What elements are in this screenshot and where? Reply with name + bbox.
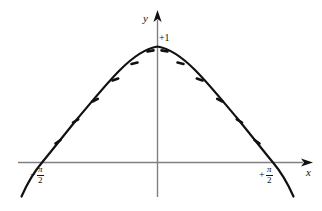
curve-tick-mark: [56, 140, 61, 144]
cosine-plot-figure: y x +1 − π 2 + π 2: [0, 0, 322, 211]
fraction-denominator: 2: [266, 176, 273, 185]
curve-tick-mark: [73, 119, 78, 122]
fraction-denominator: 2: [37, 176, 44, 185]
peak-value-label: +1: [159, 33, 169, 43]
y-axis-label: y: [143, 13, 148, 24]
x-axis-label: x: [306, 167, 311, 178]
x-tick-label-positive-half-pi: + π 2: [259, 165, 273, 185]
curve-tick-mark: [255, 140, 260, 144]
curve-tick-mark: [178, 63, 184, 65]
fraction-numerator: π: [37, 165, 44, 174]
curve-tick-mark: [132, 63, 138, 65]
minus-sign: −: [30, 170, 36, 180]
fraction-pi-over-two: π 2: [37, 165, 44, 185]
curve-tick-mark: [162, 50, 168, 51]
curve-tick-mark: [237, 119, 242, 122]
fraction-numerator: π: [266, 165, 273, 174]
curve-tick-mark: [113, 79, 119, 81]
fraction-pi-over-two: π 2: [266, 165, 273, 185]
curve-tick-mark: [148, 50, 154, 51]
x-tick-label-negative-half-pi: − π 2: [30, 165, 44, 185]
curve-tick-mark: [197, 79, 203, 81]
plus-sign: +: [259, 170, 265, 180]
